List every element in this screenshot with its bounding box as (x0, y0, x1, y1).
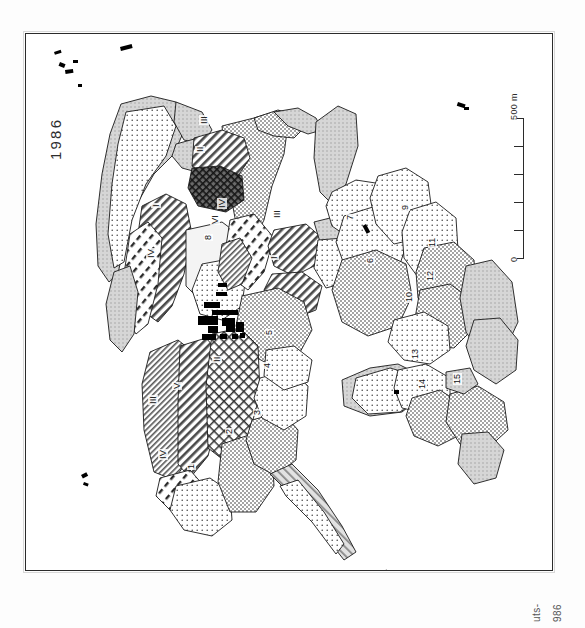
parcel-area (314, 106, 358, 204)
scale-bar-min-label: 0 (509, 257, 519, 262)
parcel-number-label: 14 (418, 378, 427, 390)
parcel-area (446, 368, 478, 394)
parcel-area (96, 96, 186, 282)
parcel-area (394, 364, 450, 414)
parcel-area (142, 340, 202, 480)
isolated-building-dots (54, 44, 469, 570)
scale-bar-axis (523, 118, 524, 258)
parcel-roman-label: II (195, 146, 205, 153)
parcel-number-label: 1 (187, 463, 196, 470)
scale-bar: 500 m 0 (487, 110, 543, 270)
parcel-area (352, 368, 422, 414)
parcel-roman-label: III (199, 115, 209, 125)
parcel-area (414, 284, 472, 348)
parcel-roman-label: I (151, 203, 161, 208)
parcel-roman-label: VI (210, 214, 220, 225)
parcel-roman-label: IV (146, 248, 156, 259)
parcel-number-label: 7 (346, 214, 355, 221)
parcel-number-label: 10 (405, 291, 414, 303)
parcel-area (222, 112, 288, 240)
parcel-area (138, 194, 192, 322)
parcel-area (268, 224, 322, 276)
parcel-number-label: 12 (426, 270, 435, 282)
parcel-roman-label: IV (217, 198, 227, 209)
parcel-area (192, 130, 250, 180)
parcel-area (264, 272, 322, 320)
parcel-area (460, 260, 518, 356)
map-canvas: IIIIIIIVIVVIIIIIIIIVIIIV 123456789101112… (26, 34, 552, 570)
year-label: 1986 (47, 118, 64, 160)
parcel-number-label: 11 (428, 237, 437, 248)
land-use-map (26, 34, 552, 570)
parcel-area (156, 470, 204, 510)
parcel-area (332, 250, 412, 336)
caption-fragment-bottom: 986 (552, 604, 563, 622)
parcel-area (172, 138, 218, 174)
caption-fragment-top: uts- (531, 603, 542, 622)
parcel-roman-label: II (212, 356, 222, 363)
scale-bar-tick (514, 174, 524, 175)
parcel-area (188, 166, 244, 212)
parcel-number-label: 4 (263, 362, 272, 369)
parcel-area (108, 106, 176, 268)
parcel-area (466, 318, 518, 384)
parcel-area (280, 480, 344, 554)
parcel-area (254, 370, 308, 430)
parcel-area (170, 478, 232, 536)
parcel-area (342, 364, 422, 416)
parcel-roman-label: IV (158, 449, 168, 460)
settlement-built-up (198, 283, 245, 340)
parcel-area (314, 238, 356, 288)
scale-bar-tick (514, 146, 524, 147)
parcel-roman-label: III (148, 395, 158, 405)
parcel-area (236, 288, 312, 366)
parcel-area (416, 242, 476, 320)
parcel-roman-label: III (272, 209, 282, 219)
parcel-number-label: 15 (453, 373, 462, 385)
parcel-number-label: 3 (253, 409, 262, 416)
parcel-area (446, 386, 508, 448)
parcel-area (274, 108, 322, 134)
parcel-area (402, 202, 458, 280)
figure-page: IIIIIIIVIVVIIIIIIIIVIIIV 123456789101112… (0, 0, 585, 628)
scale-bar-max-label: 500 m (509, 93, 519, 120)
parcel-area (270, 464, 356, 560)
parcel-area (206, 328, 260, 462)
parcel-area (336, 206, 408, 282)
parcel-area (174, 102, 212, 144)
map-plate-frame: IIIIIIIVIVVIIIIIIIIVIIIV 123456789101112… (25, 33, 553, 571)
parcel-area (326, 180, 390, 240)
parcel-roman-label: I (269, 255, 279, 260)
parcel-area (192, 258, 246, 320)
scale-bar-tick (514, 230, 524, 231)
parcel-area (218, 238, 252, 290)
parcel-area (178, 338, 222, 478)
parcel-area (106, 266, 138, 352)
parcel-number-label: 9 (401, 204, 410, 211)
parcel-area (264, 346, 312, 390)
parcel-area (254, 110, 302, 138)
parcel-area (246, 412, 298, 476)
parcel-area (458, 432, 504, 484)
parcel-number-label: 2 (225, 428, 234, 435)
parcel-area (314, 216, 348, 244)
parcel-area (226, 214, 274, 290)
parcel-area (388, 312, 450, 364)
parcel-area (370, 168, 432, 244)
parcel-number-label: 8 (204, 234, 213, 241)
parcel-area (218, 434, 274, 512)
parcel-number-label: 5 (265, 329, 274, 336)
parcel-area (406, 390, 464, 446)
parcel-area (186, 222, 238, 302)
parcel-number-label: 6 (366, 257, 375, 264)
scale-bar-tick (514, 202, 524, 203)
parcel-roman-label: V (172, 382, 182, 390)
parcel-area (124, 222, 162, 334)
parcel-number-label: 13 (411, 348, 420, 360)
